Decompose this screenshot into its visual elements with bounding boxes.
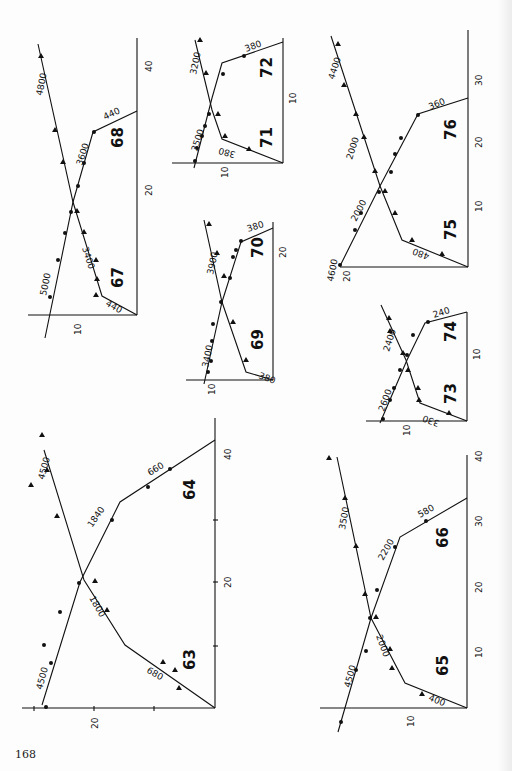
velocity-label: 3200 [188,51,203,76]
velocity-label: 1800 [87,594,107,619]
chart-71-72: 10 10 3500 380 3200 380 71 72 [172,37,298,178]
velocity-label: 380 [246,219,266,234]
profile-number: 63 [181,649,199,670]
velocity-label: 4600 [325,258,340,283]
data-points [326,455,428,724]
chart-67-68: 40 20 10 5000 3400 440 4800 3600 440 67 … [28,38,154,338]
tick-label: 20 [278,246,288,258]
velocity-label: 480 [411,246,431,261]
chart-75-76: 30 20 10 20 4600 2000 480 4400 2000 360 … [325,30,484,282]
profile-number: 69 [249,329,267,350]
profile-number: 72 [258,57,276,78]
velocity-label: 330 [421,413,441,428]
tick-label: 20 [342,270,352,282]
tick-label: 20 [474,581,484,593]
tick-label: 20 [474,136,484,148]
velocity-label: 3600 [74,141,91,166]
tick-label: 40 [474,450,484,462]
velocity-label: 2400 [381,327,398,352]
profile-number: 76 [442,119,460,140]
velocity-label: 3900 [205,251,220,276]
velocity-label: 4800 [34,72,49,97]
tick-label: 10 [288,92,298,104]
velocity-label: 5000 [38,272,53,297]
velocity-label: 440 [104,298,124,315]
velocity-label: 4400 [326,55,343,80]
figure-canvas: 40 20 20 4500 1800 680 4500 1840 660 63 … [0,0,512,771]
velocity-label: 380 [257,370,277,385]
chart-65-66: 40 30 20 10 10 4500 2000 400 3500 2200 5… [320,450,484,732]
chart-63-64: 40 20 20 4500 1800 680 4500 1840 660 63 … [22,418,233,729]
tick-label: 20 [144,184,154,196]
velocity-label: 660 [146,460,166,478]
profile-number: 75 [442,219,460,240]
tick-label: 10 [207,383,217,395]
tick-label: 10 [73,323,83,335]
profile-number: 67 [109,267,127,288]
velocity-label: 680 [145,665,165,682]
profile-number: 74 [442,321,460,342]
velocity-label: 2200 [376,537,396,562]
velocity-label: 380 [217,146,236,160]
velocity-label: 360 [427,96,447,112]
profile-number: 66 [434,527,452,548]
velocity-label: 2000 [344,135,361,160]
velocity-label: 2000 [374,633,391,658]
tick-label: 40 [223,448,233,460]
tick-label: 10 [474,200,484,212]
velocity-label: 3500 [337,506,351,531]
velocity-label: 3400 [200,344,215,369]
chart-73-74: 10 10 2600 330 2400 240 73 74 [366,305,482,436]
velocity-label: 3500 [189,127,206,152]
tick-label: 30 [474,74,484,86]
tick-label: 10 [474,646,484,658]
tick-label: 10 [472,348,482,360]
profile-number: 64 [181,479,199,500]
profile-number: 70 [249,237,267,258]
velocity-label: 4500 [342,664,358,689]
velocity-label: 400 [427,693,447,709]
velocity-label: 3400 [80,246,97,271]
tick-label: 10 [406,715,416,727]
tick-label: 20 [223,576,233,588]
velocity-label: 2000 [349,198,369,223]
velocity-label: 240 [432,305,452,320]
tick-label: 10 [402,424,412,436]
tick-label: 10 [220,166,230,178]
profile-number: 68 [109,127,127,148]
profile-number: 65 [434,655,452,676]
tick-label: 40 [144,60,154,72]
tick-label: 20 [90,717,100,729]
chart-69-70: 20 10 3400 380 3900 380 69 70 [186,219,288,395]
page-number: 168 [15,748,36,761]
profile-number: 71 [258,127,276,148]
velocity-label: 1840 [85,504,106,529]
velocity-label: 380 [243,39,263,54]
tick-label: 30 [474,515,484,527]
profile-number: 73 [442,383,460,404]
